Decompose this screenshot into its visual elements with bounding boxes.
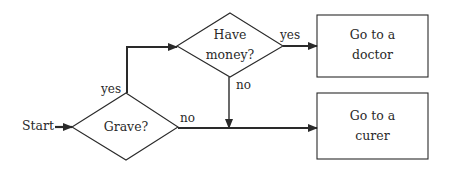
start-label: Start	[22, 120, 54, 133]
grave-node-label: Grave?	[86, 117, 166, 137]
grave-no-label: no	[180, 112, 195, 124]
grave-yes-label: yes	[101, 83, 121, 95]
doctor-node-label: Go to a doctor	[317, 25, 428, 65]
money-no-label: no	[236, 79, 251, 91]
grave-yes-connector	[127, 47, 177, 93]
money-label-line1: Have	[190, 25, 270, 45]
doctor-label-line1: Go to a	[317, 25, 428, 45]
money-label-line2: money?	[190, 45, 270, 65]
money-node-label: Have money?	[190, 25, 270, 65]
curer-node-label: Go to a curer	[317, 106, 428, 146]
money-yes-label: yes	[280, 29, 300, 41]
doctor-label-line2: doctor	[317, 45, 428, 65]
curer-label-line1: Go to a	[317, 106, 428, 126]
curer-label-line2: curer	[317, 126, 428, 146]
